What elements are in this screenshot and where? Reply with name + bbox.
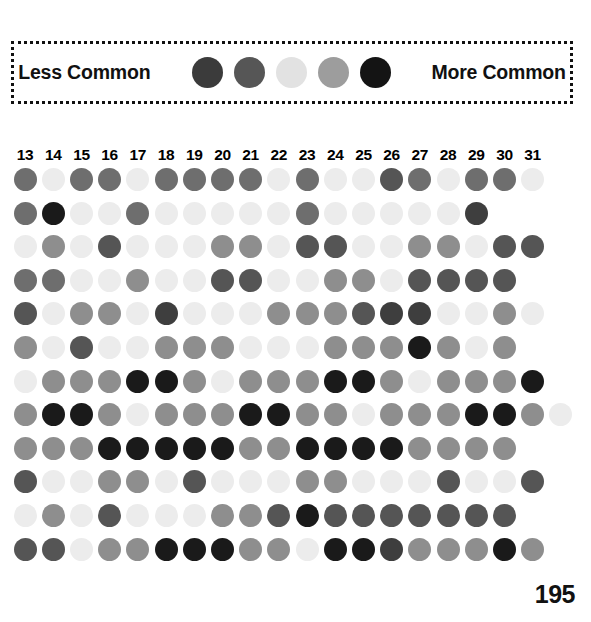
dot-cell (211, 437, 234, 460)
dot-cell (239, 336, 262, 359)
legend-high-label: More Common (431, 61, 565, 84)
dot-cell (296, 202, 319, 225)
dot-cell (352, 538, 375, 561)
column-header-27: 27 (407, 146, 433, 164)
dot-cell (14, 504, 37, 527)
dot-cell (42, 403, 65, 426)
column-header-22: 22 (266, 146, 292, 164)
dot-cell (267, 302, 290, 325)
dot-cell (437, 202, 460, 225)
dot-cell (324, 235, 347, 258)
dot-cell (296, 504, 319, 527)
dot-cell (239, 403, 262, 426)
dot-cell (14, 302, 37, 325)
dot-cell (126, 168, 149, 191)
dot-cell (98, 269, 121, 292)
dot-cell (42, 235, 65, 258)
dot-cell (183, 202, 206, 225)
dot-cell (408, 336, 431, 359)
dot-cell (126, 470, 149, 493)
dot-cell (352, 269, 375, 292)
dot-row (8, 470, 553, 494)
dot-cell (211, 235, 234, 258)
dot-cell (239, 302, 262, 325)
dot-cell (437, 168, 460, 191)
dot-cell (352, 403, 375, 426)
dot-cell (267, 269, 290, 292)
dot-cell (324, 336, 347, 359)
dot-row (8, 269, 553, 293)
column-header-19: 19 (181, 146, 207, 164)
dot-cell (126, 538, 149, 561)
dot-cell (155, 202, 178, 225)
dot-cell (380, 470, 403, 493)
dot-row (8, 235, 553, 259)
dot-cell (126, 370, 149, 393)
dot-cell (352, 168, 375, 191)
dot-cell (352, 470, 375, 493)
dot-cell (183, 370, 206, 393)
dot-cell (437, 302, 460, 325)
dot-cell (324, 202, 347, 225)
dot-cell (465, 470, 488, 493)
legend-low-label: Less Common (18, 61, 150, 84)
dot-cell (155, 269, 178, 292)
column-header-20: 20 (209, 146, 235, 164)
dot-cell (493, 336, 516, 359)
dot-cell (521, 302, 544, 325)
column-header-25: 25 (350, 146, 376, 164)
dot-cell (126, 336, 149, 359)
dot-cell (352, 235, 375, 258)
dot-cell (126, 235, 149, 258)
dot-cell (211, 269, 234, 292)
dot-cell (324, 269, 347, 292)
dot-cell (324, 370, 347, 393)
dot-cell (437, 403, 460, 426)
dot-cell (70, 235, 93, 258)
dot-cell (98, 538, 121, 561)
legend-swatch-3 (276, 57, 307, 88)
dot-cell (465, 403, 488, 426)
dot-cell (183, 235, 206, 258)
dot-cell (70, 202, 93, 225)
dot-cell (352, 370, 375, 393)
legend-swatch-4 (318, 57, 349, 88)
dot-cell (126, 403, 149, 426)
dot-cell (296, 336, 319, 359)
dot-cell (408, 437, 431, 460)
dot-cell (42, 302, 65, 325)
dot-cell (296, 370, 319, 393)
dot-cell (352, 504, 375, 527)
dot-matrix (8, 168, 553, 573)
dot-cell (380, 370, 403, 393)
dot-cell (324, 470, 347, 493)
dot-cell (493, 235, 516, 258)
dot-cell (155, 504, 178, 527)
dot-cell (98, 403, 121, 426)
dot-cell (521, 370, 544, 393)
dot-cell (493, 538, 516, 561)
dot-cell (408, 302, 431, 325)
dot-cell (380, 504, 403, 527)
dot-cell (14, 336, 37, 359)
dot-cell (296, 269, 319, 292)
dot-cell (380, 403, 403, 426)
dot-cell (155, 168, 178, 191)
dot-cell (521, 168, 544, 191)
dot-row (8, 504, 553, 528)
dot-cell (14, 269, 37, 292)
dot-cell (493, 437, 516, 460)
dot-cell (14, 470, 37, 493)
dot-cell (98, 336, 121, 359)
dot-cell (98, 437, 121, 460)
dot-cell (211, 403, 234, 426)
dot-cell (183, 168, 206, 191)
dot-cell (183, 403, 206, 426)
dot-cell (42, 269, 65, 292)
dot-cell (239, 470, 262, 493)
dot-cell (14, 403, 37, 426)
dot-cell (324, 403, 347, 426)
column-header-14: 14 (40, 146, 66, 164)
dot-cell (465, 168, 488, 191)
dot-cell (42, 336, 65, 359)
